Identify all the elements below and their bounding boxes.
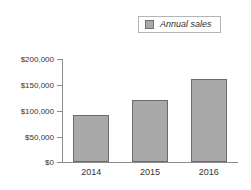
plot-area: $200,000 $150,000 $100,000 $50,000 $0 20… bbox=[0, 0, 251, 190]
x-axis-label-2015: 2015 bbox=[120, 168, 180, 177]
bar-2014[interactable] bbox=[73, 115, 109, 162]
bar-chart: Annual sales $200,000 $150,000 $100,000 … bbox=[0, 0, 251, 190]
x-axis-label-2016: 2016 bbox=[179, 168, 239, 177]
y-axis-label-0: $0 bbox=[45, 159, 54, 167]
y-axis-tick bbox=[57, 85, 62, 86]
y-axis-label-100000: $100,000 bbox=[21, 108, 54, 116]
x-axis-line bbox=[62, 162, 238, 163]
y-axis-tick bbox=[57, 137, 62, 138]
y-axis-tick bbox=[57, 111, 62, 112]
y-axis-tick bbox=[57, 59, 62, 60]
bar-2016[interactable] bbox=[191, 79, 227, 162]
y-axis-tick bbox=[57, 162, 62, 163]
bar-2015[interactable] bbox=[132, 100, 168, 162]
x-axis-label-2014: 2014 bbox=[61, 168, 121, 177]
y-axis-label-200000: $200,000 bbox=[21, 56, 54, 64]
y-axis-label-50000: $50,000 bbox=[25, 134, 54, 142]
y-axis-label-150000: $150,000 bbox=[21, 82, 54, 90]
y-axis-line bbox=[62, 59, 63, 163]
